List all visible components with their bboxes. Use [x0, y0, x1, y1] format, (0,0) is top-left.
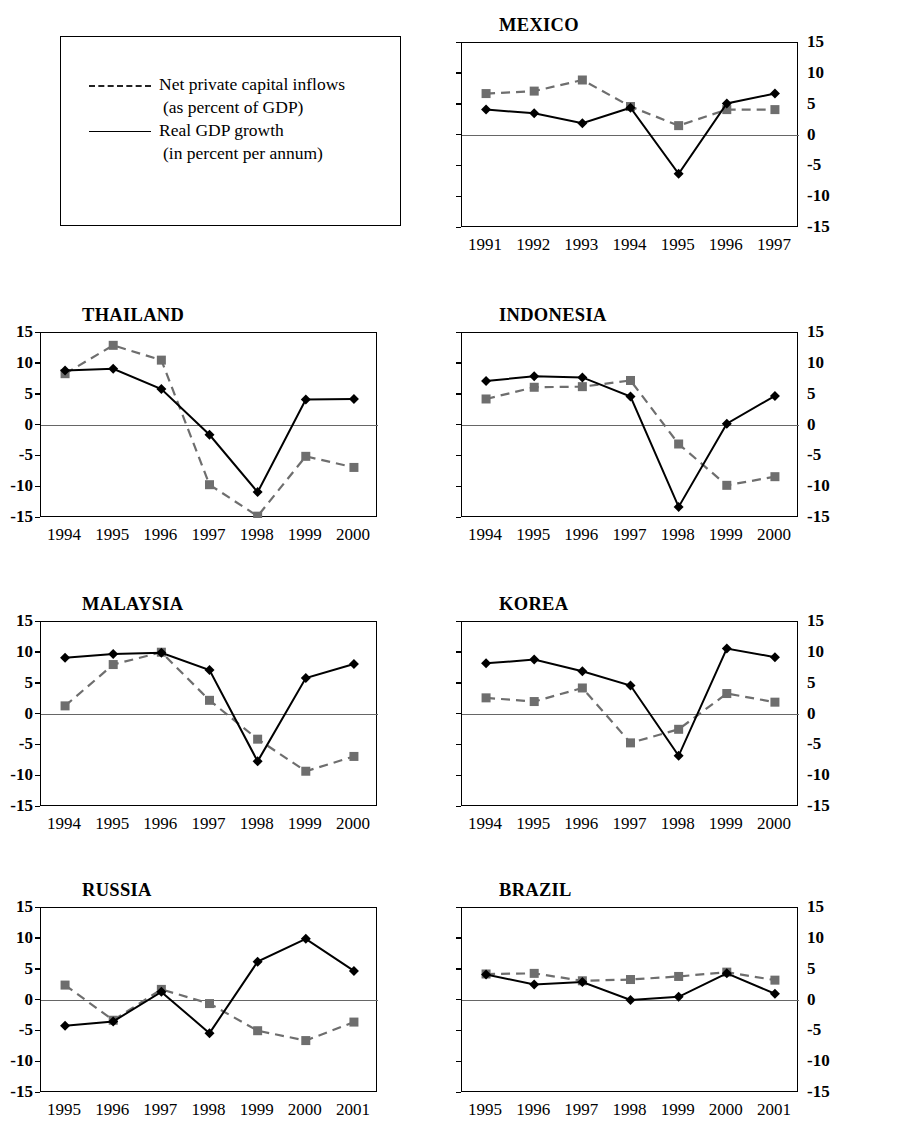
x-tick-label: 1997: [757, 235, 791, 255]
y-tick-mark: [456, 227, 461, 228]
y-tick-mark: [456, 455, 461, 456]
y-tick-mark: [456, 72, 461, 73]
data-point-marker: [109, 341, 118, 350]
y-tick-label: -5: [19, 445, 33, 465]
x-tick-label: 1996: [143, 814, 177, 834]
y-tick-mark: [456, 744, 461, 745]
y-tick-mark: [35, 968, 40, 969]
legend-entry-inflows: Net private capital inflows: [89, 73, 389, 96]
y-tick-label: 0: [807, 415, 816, 435]
x-tick-label: 1995: [516, 814, 550, 834]
plot-canvas: [41, 908, 378, 1093]
data-point-marker: [770, 105, 779, 114]
solid-line-swatch-icon: [89, 125, 151, 137]
x-tick-label: 1994: [468, 525, 502, 545]
legend-entry-gdp-label: Real GDP growth: [159, 121, 284, 140]
y-tick-mark: [35, 713, 40, 714]
y-tick-label: 10: [16, 353, 33, 373]
y-tick-mark: [456, 682, 461, 683]
x-tick-label: 1998: [613, 1100, 647, 1120]
x-tick-label: 1999: [288, 525, 322, 545]
data-point-marker: [770, 89, 780, 99]
data-point-marker: [482, 693, 491, 702]
chart-title-thailand: THAILAND: [82, 305, 184, 326]
y-tick-label: 15: [807, 32, 824, 52]
x-tick-label: 1997: [564, 1100, 598, 1120]
y-tick-label: -15: [807, 796, 830, 816]
y-tick-mark: [35, 907, 40, 908]
x-tick-label: 2000: [709, 1100, 743, 1120]
x-tick-label: 2000: [336, 525, 370, 545]
x-tick-label: 1999: [661, 1100, 695, 1120]
y-tick-label: -10: [807, 765, 830, 785]
chart-title-russia: RUSSIA: [82, 880, 152, 901]
x-tick-label: 1995: [47, 1100, 81, 1120]
x-tick-label: 2000: [757, 525, 791, 545]
y-tick-label: 0: [25, 990, 34, 1010]
y-tick-label: 5: [25, 384, 34, 404]
x-tick-label: 1997: [613, 525, 647, 545]
data-point-marker: [722, 689, 731, 698]
y-tick-mark: [35, 651, 40, 652]
y-tick-mark: [35, 393, 40, 394]
legend-entry-inflows-sub: (as percent of GDP): [89, 96, 389, 119]
dashed-line-swatch-icon: [89, 79, 151, 91]
y-tick-mark: [456, 621, 461, 622]
data-point-marker: [61, 981, 70, 990]
y-tick-label: 0: [807, 125, 816, 145]
x-tick-label: 1996: [143, 525, 177, 545]
chart-legend: Net private capital inflows (as percent …: [60, 36, 401, 226]
x-tick-label: 2000: [288, 1100, 322, 1120]
y-tick-mark: [35, 486, 40, 487]
y-tick-label: 15: [16, 322, 33, 342]
data-point-marker: [301, 395, 311, 405]
x-tick-label: 1997: [143, 1100, 177, 1120]
data-point-marker: [60, 653, 70, 663]
plot-area-thailand: [40, 332, 377, 517]
y-tick-label: 15: [16, 611, 33, 631]
y-tick-label: 0: [807, 704, 816, 724]
data-point-marker: [253, 512, 262, 518]
data-point-marker: [482, 89, 491, 98]
x-tick-label: 1991: [468, 235, 502, 255]
data-point-marker: [674, 121, 683, 130]
x-tick-label: 2001: [757, 1100, 791, 1120]
y-tick-label: -5: [807, 734, 821, 754]
chart-panel-malaysia: MALAYSIA151050-5-10-15199419951996199719…: [40, 621, 377, 806]
x-tick-label: 1993: [564, 235, 598, 255]
y-tick-mark: [456, 362, 461, 363]
data-point-marker: [626, 738, 635, 747]
plot-area-brazil: [461, 907, 798, 1092]
data-point-marker: [578, 382, 587, 391]
y-tick-label: -5: [807, 445, 821, 465]
chart-title-brazil: BRAZIL: [499, 880, 572, 901]
legend-entry-gdp: Real GDP growth: [89, 119, 389, 142]
y-tick-mark: [456, 651, 461, 652]
y-tick-mark: [35, 1061, 40, 1062]
series-line-inflows: [486, 688, 775, 743]
data-point-marker: [770, 472, 779, 481]
plot-canvas: [41, 333, 378, 518]
y-tick-mark: [456, 42, 461, 43]
x-tick-label: 1994: [613, 235, 647, 255]
y-tick-label: 10: [16, 642, 33, 662]
y-tick-label: 5: [807, 94, 816, 114]
y-tick-mark: [35, 1092, 40, 1093]
y-tick-mark: [456, 196, 461, 197]
data-point-marker: [530, 697, 539, 706]
data-point-marker: [722, 481, 731, 490]
y-tick-mark: [35, 517, 40, 518]
y-tick-mark: [35, 744, 40, 745]
x-tick-label: 1995: [95, 814, 129, 834]
y-tick-label: -10: [807, 186, 830, 206]
data-point-marker: [626, 975, 635, 984]
y-tick-mark: [35, 775, 40, 776]
y-tick-label: 0: [25, 704, 34, 724]
plot-area-malaysia: [40, 621, 377, 806]
data-point-marker: [108, 364, 118, 374]
data-point-marker: [60, 1021, 70, 1031]
y-tick-mark: [456, 134, 461, 135]
y-tick-mark: [456, 1092, 461, 1093]
x-tick-label: 1995: [516, 525, 550, 545]
data-point-marker: [626, 376, 635, 385]
